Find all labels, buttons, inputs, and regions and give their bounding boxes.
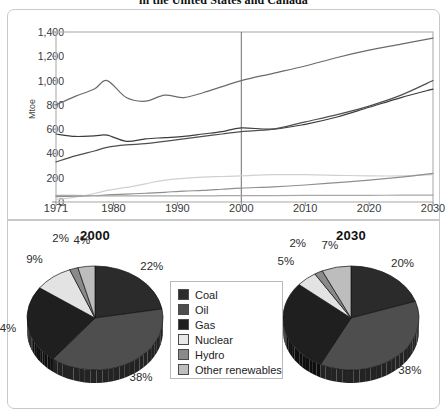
legend-item: Oil — [178, 302, 276, 317]
pie-slice-label: 2% — [52, 232, 69, 244]
line-series-other-renewables — [56, 173, 433, 196]
legend-item-label: Oil — [195, 304, 208, 316]
legend-swatch-icon — [178, 334, 189, 345]
x-tick-label: 2020 — [357, 202, 381, 214]
section-divider — [8, 219, 439, 221]
line-chart: Mtoe 02004006008001,0001,2001,400 197119… — [8, 12, 439, 219]
x-axis-ticks: 1971198019902000201020202030 — [8, 202, 439, 220]
legend-swatch-icon — [178, 364, 189, 375]
pie-slice-label: 4% — [74, 234, 91, 246]
pie-slice-label: 24% — [0, 322, 16, 334]
pie-slice-label: 9% — [26, 253, 43, 265]
x-tick-label: 1980 — [101, 202, 125, 214]
pie-chart-2000: 2000 22%38%24%9%2%4% — [10, 224, 180, 412]
pie-slice-label: 2% — [289, 237, 306, 249]
legend-item: Gas — [178, 317, 276, 332]
legend-item: Coal — [178, 287, 276, 302]
figure: in the United States and Canada Mtoe 020… — [0, 0, 447, 415]
pie-slice-label: 20% — [391, 257, 414, 269]
x-tick-label: 1990 — [165, 202, 189, 214]
legend-swatch-icon — [178, 289, 189, 300]
line-series-gas — [56, 81, 433, 162]
legend-item-label: Gas — [195, 319, 215, 331]
legend-item: Nuclear — [178, 332, 276, 347]
figure-title: in the United States and Canada — [0, 0, 447, 8]
legend-swatch-icon — [178, 319, 189, 330]
x-tick-label: 2000 — [229, 202, 253, 214]
legend-item-label: Hydro — [195, 349, 224, 361]
x-tick-label: 2030 — [421, 202, 445, 214]
legend-swatch-icon — [178, 304, 189, 315]
pie-2030-plot — [266, 246, 436, 410]
pie-slice-label: 38% — [398, 364, 421, 376]
line-series-coal — [56, 89, 433, 141]
pie-slice-label: 5% — [278, 255, 295, 267]
x-tick-label: 1971 — [44, 202, 68, 214]
legend-item-label: Coal — [195, 289, 218, 301]
line-series-oil — [56, 38, 433, 105]
legend-item: Other renewables — [178, 362, 276, 377]
legend: CoalOilGasNuclearHydroOther renewables — [170, 281, 283, 379]
line-chart-plot — [8, 12, 439, 219]
pie-chart-2030: 2030 20%38%29%5%2%7% — [266, 224, 436, 412]
legend-item: Hydro — [178, 347, 276, 362]
x-tick-label: 2010 — [293, 202, 317, 214]
legend-item-label: Nuclear — [195, 334, 233, 346]
pie-slice-label: 22% — [140, 260, 163, 272]
pie-slice-label: 7% — [322, 239, 339, 251]
legend-swatch-icon — [178, 349, 189, 360]
pie-2000-title: 2000 — [10, 228, 180, 243]
pie-slice-label: 38% — [130, 371, 153, 383]
legend-item-label: Other renewables — [195, 364, 282, 376]
